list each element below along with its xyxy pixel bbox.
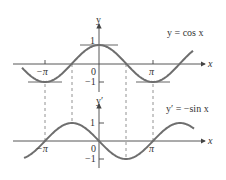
bottom-tick-pi: π <box>149 144 154 154</box>
bottom-tick-one: 1 <box>90 118 95 128</box>
top-y-axis-label: y <box>96 15 101 25</box>
bottom-tick-minus-one: −1 <box>85 154 96 164</box>
bottom-equation: y′ = −sin x <box>166 104 209 114</box>
bottom-y-axis-label: y′ <box>96 96 103 106</box>
derivative-figure: y y = cos x x 1 0 −1 −π π y′ y′ = −sin x… <box>0 0 226 180</box>
bottom-tick-neg-pi: −π <box>36 144 48 154</box>
bottom-x-axis-label: x <box>208 136 212 146</box>
top-tick-neg-pi: −π <box>36 67 48 77</box>
top-tick-one: 1 <box>90 36 95 46</box>
top-tick-minus-one: −1 <box>85 77 96 87</box>
top-x-axis-label: x <box>208 59 212 69</box>
top-tick-pi: π <box>149 67 154 77</box>
top-equation: y = cos x <box>167 28 203 38</box>
